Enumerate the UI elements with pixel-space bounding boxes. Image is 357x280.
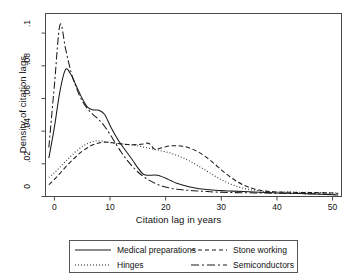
y-tick-label-p08: .08 xyxy=(22,53,32,77)
legend-label-stone-working: Stone working xyxy=(233,245,287,255)
legend-line-sample-dashdot xyxy=(190,260,228,270)
series-line-medical-preparations xyxy=(49,69,338,195)
legend-label-semiconductors: Semiconductors xyxy=(233,260,294,270)
legend-item-medical-preparations: Medical preparations xyxy=(74,242,190,257)
y-tick-label-p02: .02 xyxy=(22,151,32,175)
plot-canvas xyxy=(0,0,357,280)
x-tick-label-50: 50 xyxy=(320,202,346,212)
y-tick-label-p1: .1 xyxy=(22,20,32,44)
x-tick-label-30: 30 xyxy=(208,202,234,212)
legend-item-semiconductors: Semiconductors xyxy=(190,257,298,272)
legend-label-medical-preparations: Medical preparations xyxy=(117,245,196,255)
legend-item-stone-working: Stone working xyxy=(190,242,298,257)
x-tick-label-20: 20 xyxy=(153,202,179,212)
y-tick-label-0: 0 xyxy=(22,184,32,208)
x-tick-label-0: 0 xyxy=(41,202,67,212)
legend-item-hinges: Hinges xyxy=(74,257,190,272)
x-tick-label-10: 10 xyxy=(97,202,123,212)
legend-line-sample-dotted xyxy=(74,260,112,270)
legend-line-sample-dashed xyxy=(190,245,228,255)
series-line-stone-working xyxy=(49,142,338,193)
series-line-hinges xyxy=(49,141,338,193)
density-chart-figure: Citation lag in years Density of citatio… xyxy=(0,0,357,280)
chart-legend: Medical preparations Hinges Stone workin… xyxy=(69,240,298,273)
x-axis-title: Citation lag in years xyxy=(0,214,357,225)
x-tick-label-40: 40 xyxy=(264,202,290,212)
legend-label-hinges: Hinges xyxy=(117,260,143,270)
y-tick-label-p06: .06 xyxy=(22,85,32,109)
legend-line-sample-solid xyxy=(74,245,112,255)
y-tick-label-p04: .04 xyxy=(22,118,32,142)
